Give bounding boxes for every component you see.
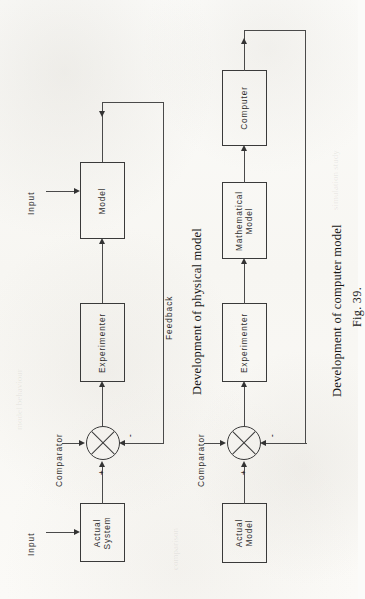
computer-output-riser	[244, 30, 245, 71]
comparator-label-leader-computer	[204, 443, 221, 444]
block-actual-system: Actual System	[80, 503, 125, 562]
link-comparator-to-experimenter-computer	[244, 386, 245, 426]
arrowhead-into-comparator-plus	[99, 461, 105, 467]
feedback-into-comparator-line-computer	[263, 443, 307, 444]
link-experimenter-to-model	[102, 243, 103, 303]
input-arrow-line-actual-system	[46, 532, 76, 533]
feedback-riser-physical	[163, 102, 164, 444]
feedback-into-comparator-line	[122, 443, 164, 444]
link-mathematical-model-to-computer	[244, 150, 245, 183]
block-mathematical-model: Mathematical Model	[222, 182, 267, 259]
feedback-label-physical: Feedback	[164, 296, 174, 340]
block-experimenter-physical: Experimenter	[80, 303, 125, 382]
block-computer: Computer	[222, 70, 267, 146]
comparator-label-leader	[62, 443, 80, 444]
feedback-into-comparator-arrowhead-computer	[260, 440, 266, 446]
comparator-minus-sign-computer: -	[267, 434, 276, 437]
comparator-computer	[227, 426, 261, 460]
comparator-physical	[86, 426, 120, 460]
feedback-riser-computer	[305, 30, 306, 444]
link-experimenter-to-mathematical-model	[244, 263, 245, 304]
block-actual-system-label: Actual System	[93, 516, 113, 549]
input-arrowhead-model	[74, 188, 80, 194]
comparator-label-arrowhead	[79, 440, 85, 446]
feedback-arrowhead-into-model	[99, 111, 105, 117]
block-experimenter-computer: Experimenter	[222, 303, 267, 382]
caption-computer-model: Development of computer model	[330, 224, 345, 397]
comparator-plus-sign: +	[97, 470, 106, 475]
block-actual-model-label: Actual Model	[235, 519, 255, 547]
input-label-actual-system: Input	[26, 533, 36, 556]
comparator-label-arrowhead-computer	[220, 440, 226, 446]
feedback-into-comparator-arrowhead	[119, 440, 125, 446]
block-mathematical-model-label: Mathematical Model	[235, 190, 255, 250]
block-computer-label: Computer	[240, 86, 250, 130]
figure-number: Fig. 39.	[350, 287, 365, 327]
block-actual-model: Actual Model	[222, 503, 267, 563]
input-label-model: Input	[26, 192, 36, 215]
computer-output-arrowhead	[241, 38, 247, 44]
block-model: Model	[80, 162, 125, 239]
block-experimenter-physical-label: Experimenter	[98, 312, 108, 372]
page-bleedthrough-3: comparison	[170, 528, 180, 570]
page-bleedthrough-2: simulation study	[330, 150, 340, 210]
feedback-top-computer	[244, 30, 306, 31]
block-experimenter-computer-label: Experimenter	[240, 312, 250, 372]
comparator-plus-sign-computer: +	[239, 470, 248, 475]
comparator-label-physical: Comparator	[54, 433, 64, 487]
arrowhead-into-comparator-plus-computer	[241, 461, 247, 467]
caption-physical-model: Development of physical model	[190, 228, 205, 395]
page-bleedthrough-1: model behaviour	[14, 369, 24, 430]
comparator-label-computer: Comparator	[196, 433, 206, 487]
input-arrow-line-model	[46, 191, 76, 192]
link-comparator-to-experimenter	[102, 386, 103, 426]
comparator-minus-sign: -	[125, 434, 134, 437]
feedback-top-physical	[102, 102, 164, 103]
block-model-label: Model	[98, 187, 108, 214]
